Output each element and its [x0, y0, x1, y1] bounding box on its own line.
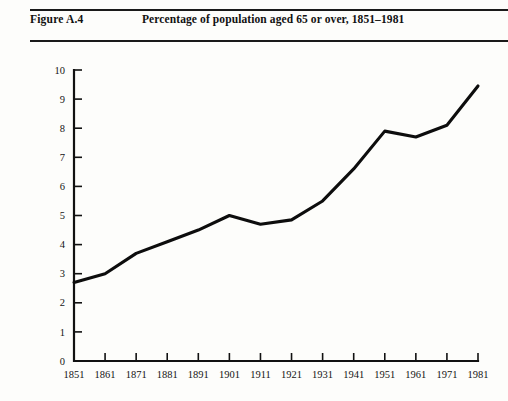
x-axis-tick-label: 1961 — [405, 369, 426, 380]
x-axis-tick-label: 1901 — [219, 369, 240, 380]
axis-frame — [74, 70, 478, 361]
x-axis-tick-label: 1881 — [157, 369, 178, 380]
figure-page: Figure A.4 Percentage of population aged… — [0, 0, 508, 401]
x-axis-tick-label: 1861 — [95, 369, 116, 380]
x-axis-tick-label: 1981 — [468, 369, 489, 380]
x-axis-tick-label: 1971 — [436, 369, 457, 380]
y-axis-tick-label: 9 — [60, 94, 65, 105]
y-axis-tick-label: 10 — [55, 65, 66, 76]
x-axis-tick-label: 1921 — [281, 369, 302, 380]
y-axis-tick-label: 2 — [60, 297, 65, 308]
y-axis-tick-label: 0 — [60, 356, 65, 367]
x-axis: 1851186118711881189119011911192119311941… — [64, 353, 489, 380]
y-axis-tick-label: 5 — [60, 210, 65, 221]
y-axis-tick-label: 6 — [60, 181, 65, 192]
data-series-line — [74, 86, 478, 282]
y-axis-tick-label: 7 — [60, 152, 65, 163]
x-axis-tick-label: 1941 — [343, 369, 364, 380]
y-axis-tick-label: 8 — [60, 123, 65, 134]
y-axis: 012345678910 — [55, 65, 83, 367]
y-axis-tick-label: 4 — [60, 239, 66, 250]
x-axis-tick-label: 1931 — [312, 369, 333, 380]
y-axis-tick-label: 1 — [60, 327, 65, 338]
chart-canvas: 012345678910 185118611871188118911901191… — [0, 0, 508, 401]
x-axis-tick-label: 1851 — [64, 369, 85, 380]
line-chart: 012345678910 185118611871188118911901191… — [0, 0, 508, 401]
x-axis-tick-label: 1911 — [250, 369, 271, 380]
x-axis-tick-label: 1871 — [126, 369, 147, 380]
y-axis-tick-label: 3 — [60, 268, 65, 279]
x-axis-tick-label: 1891 — [188, 369, 209, 380]
x-axis-tick-label: 1951 — [374, 369, 395, 380]
